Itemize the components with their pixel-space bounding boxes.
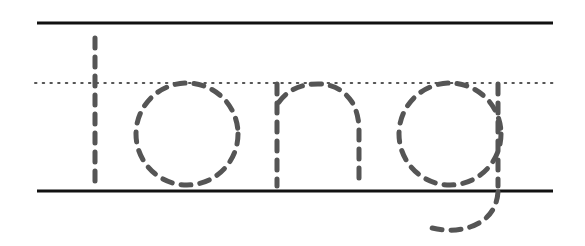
- letter-g-trace: [399, 83, 501, 230]
- handwriting-worksheet: [0, 0, 585, 246]
- letter-n-trace: [277, 84, 359, 186]
- letter-o-trace: [136, 83, 238, 185]
